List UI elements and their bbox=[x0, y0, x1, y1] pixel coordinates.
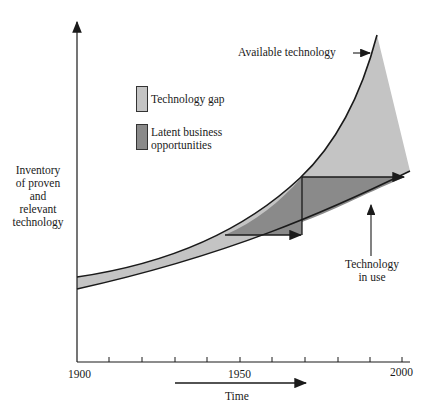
x-axis-ticks bbox=[109, 357, 402, 362]
x-axis-label: Time bbox=[225, 390, 249, 403]
x-tick-1950: 1950 bbox=[228, 368, 251, 381]
x-tick-1900: 1900 bbox=[68, 368, 91, 381]
legend-swatch-latent-opportunities bbox=[136, 124, 148, 150]
x-tick-2000: 2000 bbox=[390, 366, 413, 379]
technology-gap-area bbox=[77, 35, 410, 289]
legend-label-latent-opportunities: Latent business opportunities bbox=[151, 126, 222, 152]
y-axis-label: Inventory of proven and relevant technol… bbox=[2, 164, 74, 229]
legend-swatch-technology-gap bbox=[136, 86, 148, 112]
available-technology-label: Available technology bbox=[238, 46, 336, 59]
legend-label-technology-gap: Technology gap bbox=[151, 93, 225, 106]
technology-in-use-label: Technology in use bbox=[340, 258, 404, 284]
